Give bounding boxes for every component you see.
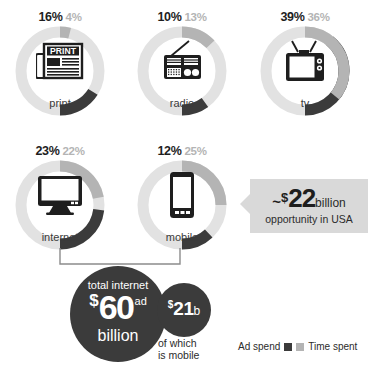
legend-label-time-spent: Time spent	[308, 341, 357, 352]
legend-swatch-ad-spend	[284, 343, 292, 351]
total-bubble-superscript: ad	[135, 295, 147, 307]
total-bubble-unit: billion	[70, 328, 166, 344]
newspaper-icon: PRINT	[35, 38, 85, 84]
time-spent-percent-internet: 22%	[63, 146, 85, 158]
total-bubble-dollar-sign: $	[89, 291, 98, 310]
media-label-mobile: mobile	[128, 231, 236, 243]
total-bubble-amount: 60	[99, 288, 134, 326]
ad-spend-percent-print: 16%	[38, 11, 62, 24]
donut-card-radio: 10% 13%	[128, 8, 236, 126]
mobile-bubble-suffix: b	[194, 304, 201, 318]
percent-row-internet: 23% 22%	[6, 142, 114, 157]
chart-legend: Ad spend Time spent	[238, 341, 357, 352]
mobile-share-bubble: $21b	[157, 283, 211, 337]
time-spent-percent-print: 4%	[66, 12, 82, 24]
time-spent-percent-mobile: 25%	[185, 146, 207, 158]
donut-card-mobile: 12% 25% mobile	[128, 142, 236, 260]
infographic-root: 16% 4% PRINT	[0, 0, 373, 368]
percent-row-tv: 39% 36%	[251, 8, 359, 23]
time-spent-percent-tv: 36%	[308, 12, 330, 24]
percent-row-radio: 10% 13%	[128, 8, 236, 23]
total-bubble-amount-line: $60ad	[70, 290, 166, 324]
desktop-monitor-icon	[35, 172, 85, 218]
ad-spend-percent-mobile: 12%	[157, 145, 181, 158]
media-label-tv: tv	[251, 97, 359, 109]
time-spent-percent-radio: 13%	[185, 12, 207, 24]
callout-tilde: ~	[272, 193, 281, 210]
percent-row-mobile: 12% 25%	[128, 142, 236, 157]
legend-label-ad-spend: Ad spend	[238, 341, 280, 352]
connector-bracket	[58, 248, 182, 268]
callout-unit: billion	[315, 196, 346, 210]
svg-text:PRINT: PRINT	[50, 46, 77, 56]
smartphone-icon	[157, 172, 207, 218]
television-icon	[280, 38, 330, 84]
callout-amount-line: ~$22billion	[250, 185, 368, 211]
opportunity-callout: ~$22billion opportunity in USA	[240, 179, 368, 233]
mobile-bubble-amount-line: $21b	[157, 299, 211, 318]
percent-row-print: 16% 4%	[6, 8, 114, 23]
media-label-internet: internet	[6, 231, 114, 243]
mobile-bubble-caption: of which is mobile	[158, 337, 238, 361]
media-label-radio: radio	[128, 97, 236, 109]
callout-subtitle: opportunity in USA	[250, 213, 368, 225]
donut-card-internet: 23% 22% internet	[6, 142, 114, 260]
ad-spend-percent-tv: 39%	[280, 11, 304, 24]
media-label-print: print	[6, 97, 114, 109]
legend-swatch-time-spent	[296, 343, 304, 351]
callout-amount: 22	[288, 183, 315, 213]
mobile-caption-line2: is mobile	[158, 349, 238, 361]
donut-card-print: 16% 4% PRINT	[6, 8, 114, 126]
mobile-bubble-amount: 21	[173, 298, 193, 319]
mobile-caption-line1: of which	[158, 337, 238, 349]
ad-spend-percent-radio: 10%	[157, 11, 181, 24]
ad-spend-percent-internet: 23%	[35, 145, 59, 158]
donut-card-tv: 39% 36%	[251, 8, 359, 126]
total-internet-ad-bubble: total internet $60ad billion	[70, 266, 166, 362]
radio-icon	[157, 38, 207, 84]
